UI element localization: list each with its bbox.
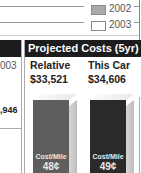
legend-rule xyxy=(0,6,84,7)
left-panel-header xyxy=(0,40,21,57)
legend-swatch-2003 xyxy=(91,21,106,31)
this-car-bar-side xyxy=(126,100,134,173)
relative-bar: Cost/Mile 48¢ xyxy=(33,94,77,173)
projected-costs-panel: Projected Costs (5yr) Relative $33,521 T… xyxy=(24,40,141,173)
projected-costs-title: Projected Costs (5yr) xyxy=(25,40,141,57)
this-car-cost-per-mile: 49¢ xyxy=(90,161,126,172)
relative-label: Relative xyxy=(30,59,85,71)
this-car-bar: Cost/Mile 49¢ xyxy=(90,94,134,173)
panel-right-border xyxy=(139,97,140,173)
this-car-column: This Car $34,606 xyxy=(88,59,141,85)
relative-bar-side xyxy=(69,100,77,173)
left-panel: 003 ,946 xyxy=(0,40,22,173)
relative-column: Relative $33,521 xyxy=(30,59,85,85)
this-car-bar-front: Cost/Mile 49¢ xyxy=(90,100,126,173)
relative-cost-per-mile: 48¢ xyxy=(33,161,69,172)
legend-swatch-2002 xyxy=(91,5,106,15)
relative-bar-front: Cost/Mile 48¢ xyxy=(33,100,69,173)
this-car-label: This Car xyxy=(88,59,141,71)
left-panel-value: ,946 xyxy=(0,105,18,115)
legend-rule xyxy=(134,22,139,23)
relative-value: $33,521 xyxy=(30,73,85,85)
section-rule xyxy=(0,35,139,36)
left-panel-rule xyxy=(0,128,21,129)
this-car-value: $34,606 xyxy=(88,73,141,85)
legend-label-2003: 2003 xyxy=(109,20,131,30)
relative-cost-per-mile-label: Cost/Mile xyxy=(33,153,69,161)
this-car-cost-per-mile-label: Cost/Mile xyxy=(90,153,126,161)
legend-label-2002: 2002 xyxy=(109,4,131,14)
left-panel-year-label: 003 xyxy=(0,60,17,71)
legend-tick xyxy=(139,0,140,40)
legend-rule xyxy=(0,22,84,23)
